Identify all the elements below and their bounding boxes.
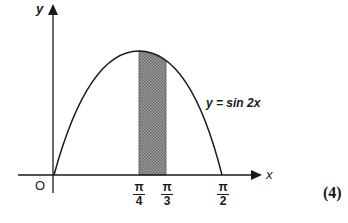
tick-denominator: 2 (220, 194, 227, 208)
sine-curve (54, 51, 222, 175)
shaded-region (139, 51, 166, 175)
question-marks: (4) (323, 184, 342, 202)
tick-denominator: 4 (136, 194, 143, 208)
tick-pi-over-3: π 3 (159, 182, 175, 207)
y-axis-arrow-icon (48, 4, 58, 15)
curve-label: y = sin 2x (206, 96, 260, 110)
x-axis-arrow-icon (251, 170, 262, 180)
tick-numerator: π (162, 180, 171, 194)
origin-label: O (35, 178, 45, 193)
tick-pi-over-2: π 2 (215, 182, 231, 207)
tick-numerator: π (134, 180, 143, 194)
x-axis-label: x (266, 167, 273, 182)
y-axis-label: y (36, 1, 43, 16)
tick-numerator: π (218, 180, 227, 194)
tick-denominator: 3 (164, 194, 171, 208)
tick-pi-over-4: π 4 (131, 182, 147, 207)
